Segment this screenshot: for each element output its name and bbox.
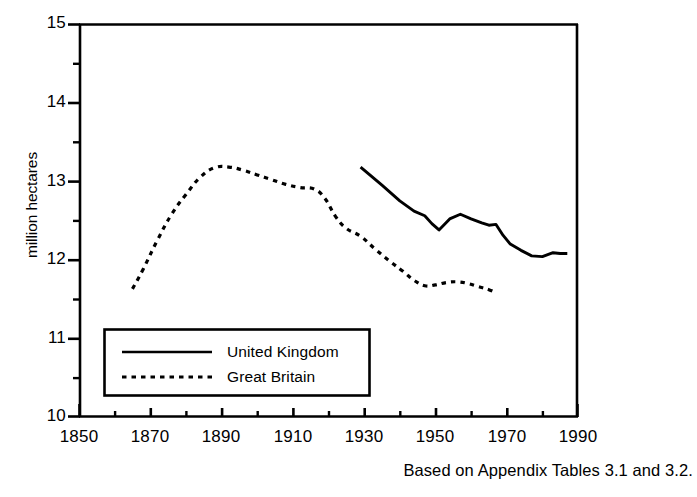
x-tick-label-1990: 1990	[543, 427, 613, 447]
y-tick-label-11: 11	[22, 328, 66, 348]
legend-label-great-britain: Great Britain	[227, 368, 315, 386]
x-tick-label-1910: 1910	[258, 427, 328, 447]
chart-figure: million hectares 15 14 13 12 11 10 1850 …	[0, 0, 697, 497]
y-tick-label-10: 10	[22, 406, 66, 426]
series-line-united-kingdom	[361, 167, 568, 257]
x-tick-label-1930: 1930	[329, 427, 399, 447]
x-tick-label-1950: 1950	[400, 427, 470, 447]
x-tick-label-1890: 1890	[186, 427, 256, 447]
y-tick-label-14: 14	[22, 92, 66, 112]
y-tick-label-15: 15	[22, 13, 66, 33]
plot-area	[0, 0, 697, 497]
source-note: Based on Appendix Tables 3.1 and 3.2.	[403, 461, 693, 480]
x-tick-label-1970: 1970	[472, 427, 542, 447]
legend-label-united-kingdom: United Kingdom	[227, 343, 339, 361]
y-tick-label-12: 12	[22, 249, 66, 269]
series-line-great-britain	[132, 166, 496, 292]
x-tick-label-1850: 1850	[44, 427, 114, 447]
y-tick-label-13: 13	[22, 171, 66, 191]
x-tick-label-1870: 1870	[115, 427, 185, 447]
